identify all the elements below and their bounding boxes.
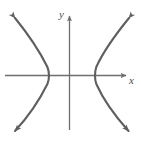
hyperbola-left-branch — [15, 18, 49, 131]
graph-canvas — [0, 0, 141, 145]
y-axis-label: y — [59, 9, 64, 20]
x-axis-label: x — [129, 75, 134, 86]
hyperbola-right-branch — [95, 18, 129, 131]
hyperbola-figure: y x — [0, 0, 141, 145]
